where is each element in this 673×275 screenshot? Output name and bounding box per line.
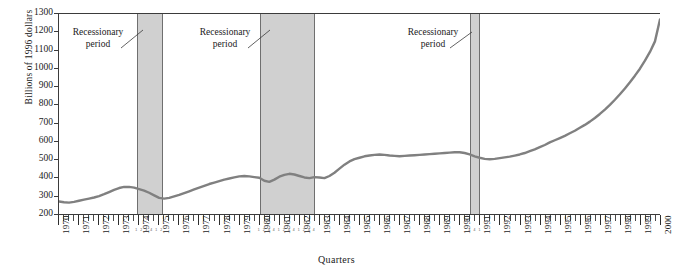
- annotation-line-1: Recessionary: [55, 27, 141, 39]
- x-tick-major: [660, 215, 661, 225]
- x-tick-minor: [655, 215, 656, 221]
- x-tick-major: [439, 215, 440, 225]
- annotation-3: Recessionaryperiod: [390, 27, 476, 50]
- x-tick-major: [520, 215, 521, 225]
- x-tick-major: [459, 215, 460, 225]
- x-tick-major: [339, 215, 340, 225]
- x-tick-minor: [294, 215, 295, 221]
- year-label-1978: 1978: [223, 215, 232, 234]
- year-label-1971: 1971: [82, 215, 91, 234]
- year-label-1985: 1985: [363, 215, 372, 234]
- x-tick-major: [379, 215, 380, 225]
- x-tick-major: [138, 215, 139, 225]
- annotation-line-2: period: [55, 39, 141, 51]
- x-tick-minor: [234, 215, 235, 221]
- x-tick-minor: [635, 215, 636, 221]
- year-label-1987: 1987: [403, 215, 412, 234]
- y-tick-label: 200: [11, 209, 53, 219]
- x-tick-minor: [274, 215, 275, 221]
- x-tick-minor: [113, 215, 114, 221]
- year-label-1989: 1989: [443, 215, 452, 234]
- year-label-1982: 1982: [303, 215, 312, 234]
- x-tick-minor: [555, 215, 556, 221]
- annotation-line-1: Recessionary: [390, 27, 476, 39]
- y-tick-mark: [54, 86, 58, 87]
- x-tick-major: [479, 215, 480, 225]
- recession-band-1: [137, 14, 163, 214]
- x-tick-minor: [595, 215, 596, 221]
- x-tick-minor: [615, 215, 616, 221]
- y-tick-label: 300: [11, 191, 53, 201]
- x-tick-major: [359, 215, 360, 225]
- year-label-1979: 1979: [243, 215, 252, 234]
- clipped-title-remnant: [60, 0, 620, 1]
- x-tick-major: [239, 215, 240, 225]
- x-tick-major: [620, 215, 621, 225]
- x-tick-major: [219, 215, 220, 225]
- year-label-1998: 1998: [624, 215, 633, 234]
- y-tick-mark: [54, 13, 58, 14]
- x-tick-major: [158, 215, 159, 225]
- plot-inner: [59, 14, 660, 214]
- year-label-1995: 1995: [564, 215, 573, 234]
- x-tick-minor: [73, 215, 74, 221]
- year-label-1983: 1983: [323, 215, 332, 234]
- year-label-1984: 1984: [343, 215, 352, 234]
- x-tick-minor: [515, 215, 516, 221]
- year-label-1970: 1970: [62, 215, 71, 234]
- x-tick-minor: [93, 215, 94, 221]
- x-tick-minor: [374, 215, 375, 221]
- year-label-1977: 1977: [202, 215, 211, 234]
- x-tick-major: [319, 215, 320, 225]
- x-tick-minor: [334, 215, 335, 221]
- x-tick-minor: [214, 215, 215, 221]
- x-tick-major: [118, 215, 119, 225]
- y-tick-mark: [54, 141, 58, 142]
- year-label-1992: 1992: [503, 215, 512, 234]
- quarter-micro-label: 1: [478, 226, 480, 234]
- y-tick-label: 1200: [11, 26, 53, 36]
- x-tick-major: [640, 215, 641, 225]
- x-tick-major: [259, 215, 260, 225]
- year-label-1972: 1972: [102, 215, 111, 234]
- x-tick-minor: [133, 215, 134, 221]
- x-tick-minor: [173, 215, 174, 221]
- y-tick-mark: [54, 123, 58, 124]
- year-label-2000: 2000: [664, 215, 673, 234]
- y-tick-label: 500: [11, 154, 53, 164]
- x-tick-minor: [193, 215, 194, 221]
- y-tick-mark: [54, 104, 58, 105]
- year-label-1976: 1976: [182, 215, 191, 234]
- x-tick-major: [78, 215, 79, 225]
- x-tick-major: [178, 215, 179, 225]
- year-label-1974: 1974: [142, 215, 151, 234]
- year-label-1999: 1999: [644, 215, 653, 234]
- year-label-1997: 1997: [604, 215, 613, 234]
- year-label-1990: 1990: [463, 215, 472, 234]
- x-tick-minor: [414, 215, 415, 221]
- y-tick-mark: [54, 177, 58, 178]
- x-tick-major: [399, 215, 400, 225]
- chart-container: Billions of 1996 dollars 200300400500600…: [0, 0, 673, 275]
- plot-area: [58, 13, 660, 214]
- x-tick-minor: [434, 215, 435, 221]
- x-tick-major: [540, 215, 541, 225]
- x-tick-minor: [454, 215, 455, 221]
- annotation-2: Recessionaryperiod: [182, 27, 268, 50]
- y-tick-mark: [54, 159, 58, 160]
- x-tick-minor: [314, 215, 315, 221]
- y-tick-label: 1000: [11, 63, 53, 73]
- y-tick-label: 400: [11, 172, 53, 182]
- y-tick-mark: [54, 196, 58, 197]
- x-tick-minor: [254, 215, 255, 221]
- x-tick-minor: [153, 215, 154, 221]
- x-tick-major: [198, 215, 199, 225]
- year-label-1981: 1981: [283, 215, 292, 234]
- year-label-1994: 1994: [544, 215, 553, 234]
- year-label-1980: 1980: [263, 215, 272, 234]
- year-label-1988: 1988: [423, 215, 432, 234]
- y-tick-label: 1100: [11, 45, 53, 55]
- year-label-1975: 1975: [162, 215, 171, 234]
- x-axis-title: Quarters: [0, 254, 673, 265]
- annotation-line-2: period: [390, 39, 476, 51]
